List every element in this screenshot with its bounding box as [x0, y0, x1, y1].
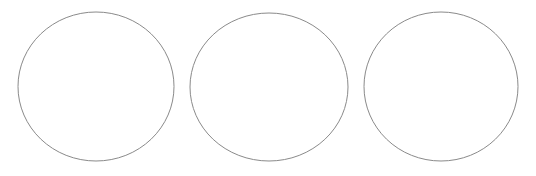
diagram-canvas: [0, 0, 536, 176]
circle-3[interactable]: [364, 12, 518, 161]
three-circles-figure: [0, 0, 536, 176]
circle-2[interactable]: [190, 13, 348, 161]
circle-1[interactable]: [18, 12, 174, 161]
